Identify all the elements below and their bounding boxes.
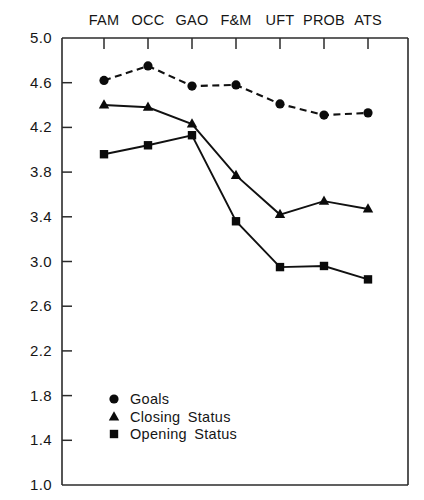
datapoint-OCC — [143, 61, 152, 70]
datapoint-FAM — [100, 150, 108, 158]
datapoint-FAM — [99, 76, 108, 85]
y-axis-label-1.0: 1.0 — [8, 476, 52, 493]
datapoint-OCC — [144, 141, 152, 149]
x-axis-label-F&M: F&M — [220, 12, 251, 28]
series-line — [104, 105, 368, 215]
y-axis-label-3.0: 3.0 — [8, 253, 52, 270]
datapoint-ATS — [363, 108, 372, 117]
data-series — [99, 61, 373, 283]
datapoint-F&M — [232, 217, 240, 225]
series-closing-status — [99, 99, 373, 218]
series-opening-status — [100, 131, 372, 284]
x-axis-label-FAM: FAM — [89, 12, 119, 28]
datapoint-F&M — [231, 80, 240, 89]
series-goals — [99, 61, 372, 119]
datapoint-UFT — [276, 263, 284, 271]
datapoint-PROB — [319, 111, 328, 120]
datapoint-PROB — [320, 262, 328, 270]
datapoint-UFT — [275, 99, 284, 108]
series-line — [104, 135, 368, 279]
axis-ticks — [62, 38, 368, 440]
y-axis-label-1.4: 1.4 — [8, 431, 52, 448]
x-axis-label-PROB: PROB — [303, 12, 345, 28]
legend-marker-triangle — [109, 411, 119, 420]
chart-figure: 5.04.64.23.83.43.02.62.21.81.41.0 FAMOCC… — [0, 0, 424, 500]
chart-plot-area — [0, 0, 424, 500]
datapoint-FAM — [99, 99, 109, 108]
legend-markers — [109, 394, 119, 438]
y-axis-label-3.8: 3.8 — [8, 163, 52, 180]
y-axis-label-2.2: 2.2 — [8, 342, 52, 359]
y-axis-label-4.2: 4.2 — [8, 118, 52, 135]
legend-label-closing-status: Closing Status — [130, 409, 231, 425]
datapoint-ATS — [364, 275, 372, 283]
y-axis-label-3.4: 3.4 — [8, 208, 52, 225]
legend-label-goals: Goals — [130, 391, 169, 407]
x-axis-label-ATS: ATS — [354, 12, 382, 28]
legend-marker-circle — [109, 394, 118, 403]
x-axis-label-OCC: OCC — [132, 12, 165, 28]
y-axis-label-5.0: 5.0 — [8, 29, 52, 46]
datapoint-GAO — [188, 131, 196, 139]
x-axis-label-GAO: GAO — [176, 12, 209, 28]
datapoint-GAO — [187, 81, 196, 90]
y-axis-label-4.6: 4.6 — [8, 74, 52, 91]
y-axis-label-2.6: 2.6 — [8, 297, 52, 314]
x-axis-label-UFT: UFT — [266, 12, 295, 28]
legend-label-opening-status: Opening Status — [130, 426, 237, 442]
datapoint-PROB — [319, 195, 329, 204]
y-axis-label-1.8: 1.8 — [8, 387, 52, 404]
legend-marker-square — [110, 430, 118, 438]
